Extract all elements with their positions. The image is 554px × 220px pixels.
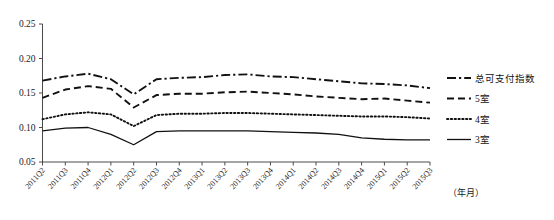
x-tick-label: 2011Q4	[69, 166, 93, 191]
x-tick-label: 2012Q3	[137, 166, 161, 191]
y-tick-label: 0.25	[19, 19, 36, 29]
y-tick-label: 0.10	[19, 123, 36, 133]
x-tick-label: 2013Q3	[228, 166, 252, 191]
x-tick-label: 2014Q3	[319, 166, 343, 191]
x-tick-label: 2011Q2	[23, 166, 47, 191]
x-tick-label: 2012Q4	[160, 166, 184, 191]
x-tick-label: 2014Q2	[297, 166, 321, 191]
x-tick-label: 2015Q2	[388, 166, 412, 191]
x-tick-label: 2015Q1	[365, 166, 389, 191]
y-tick-label: 0.15	[19, 88, 36, 98]
x-tick-label: 2012Q2	[114, 166, 138, 191]
x-tick-label: 2013Q2	[205, 166, 229, 191]
legend-label-5室: 5室	[475, 93, 490, 104]
legend-label-3室: 3室	[475, 134, 490, 145]
series-line-总可支付指数	[43, 74, 431, 95]
x-axis-title: （年月）	[448, 187, 484, 198]
x-tick-label: 2013Q4	[251, 166, 275, 191]
chart-canvas: 0.250.200.150.100.052011Q22011Q32011Q420…	[0, 0, 554, 220]
x-tick-label: 2015Q3	[411, 166, 435, 191]
series-line-3室	[43, 128, 431, 145]
x-tick-label: 2014Q4	[342, 166, 366, 191]
x-tick-label: 2014Q1	[274, 166, 298, 191]
x-axis-ticks: 2011Q22011Q32011Q42012Q12012Q22012Q32012…	[23, 162, 434, 191]
affordability-index-line-chart: 0.250.200.150.100.052011Q22011Q32011Q420…	[0, 0, 554, 220]
x-tick-label: 2011Q3	[46, 166, 70, 191]
y-axis-ticks: 0.250.200.150.100.05	[19, 19, 43, 167]
legend-label-总可支付指数: 总可支付指数	[475, 73, 535, 84]
x-tick-label: 2012Q1	[91, 166, 115, 191]
series-line-5室	[43, 86, 431, 107]
legend-label-4室: 4室	[475, 114, 490, 125]
x-tick-label: 2013Q1	[183, 166, 207, 191]
series-line-4室	[43, 112, 431, 126]
series-group	[43, 74, 431, 145]
y-tick-label: 0.05	[19, 157, 36, 167]
chart-legend: 总可支付指数5室4室3室	[447, 73, 535, 146]
y-tick-label: 0.20	[19, 54, 36, 64]
